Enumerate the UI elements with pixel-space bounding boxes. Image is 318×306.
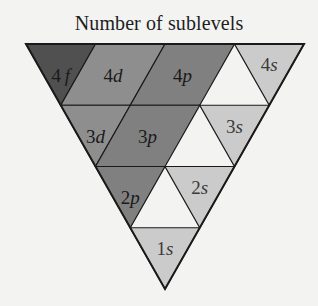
label-2p: 2p — [121, 187, 140, 208]
label-4f: 4 f — [52, 65, 73, 86]
label-4d: 4d — [103, 65, 123, 86]
label-4p: 4p — [173, 65, 192, 86]
label-2s: 2s — [191, 177, 208, 198]
label-1s: 1s — [157, 238, 174, 259]
label-3d: 3d — [86, 126, 106, 147]
label-4s: 4s — [261, 54, 278, 75]
label-3p: 3p — [138, 126, 157, 147]
sublevel-triangle: 4 f4d4p4s3d3p3s2p2s1s — [0, 0, 318, 306]
label-3s: 3s — [226, 116, 243, 137]
